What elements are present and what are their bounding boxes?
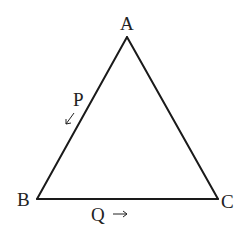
vertex-label-a: A (120, 13, 134, 34)
triangle-diagram: A B C P Q (0, 0, 251, 232)
arrow-right-icon (113, 211, 127, 217)
side-ab (37, 37, 127, 199)
vertex-label-c: C (221, 191, 234, 212)
arrow-down-left-icon (66, 113, 74, 124)
triangle-abc (37, 37, 218, 199)
point-label-q: Q (91, 204, 105, 225)
point-label-p: P (73, 89, 84, 110)
vertex-label-b: B (17, 189, 30, 210)
side-ac (127, 37, 218, 199)
